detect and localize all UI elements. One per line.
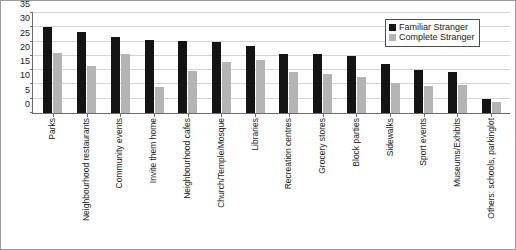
bar-group — [103, 13, 137, 113]
x-axis-label: Others: schools, parkinglot — [487, 118, 496, 219]
bar-familiar-stranger — [347, 56, 356, 113]
bar-complete-stranger — [87, 66, 96, 113]
x-axis-label: Community events — [115, 118, 124, 188]
legend-swatch-complete-stranger — [389, 34, 396, 41]
x-axis-label-cell: Sport events — [407, 118, 441, 248]
y-axis-tick-label: 15 — [20, 57, 30, 66]
x-axis-tick-mark — [356, 113, 357, 117]
bar-chart: 05101520253035 ParksNeighbourhood restau… — [0, 0, 516, 250]
bar-group — [171, 13, 205, 113]
bar-familiar-stranger — [482, 99, 491, 113]
bar-complete-stranger — [492, 102, 501, 113]
x-axis-label-cell: Grocery stores — [305, 118, 339, 248]
x-axis-tick-mark — [154, 113, 155, 117]
legend-label-familiar-stranger: Familiar Stranger — [399, 23, 468, 32]
y-axis-tick-label: 10 — [20, 71, 30, 80]
bar-familiar-stranger — [111, 37, 120, 113]
bar-familiar-stranger — [381, 64, 390, 113]
x-axis-tick-mark — [87, 113, 88, 117]
legend-item: Familiar Stranger — [389, 23, 475, 32]
x-axis-label: Neighbourhood cafes — [183, 118, 192, 199]
bar-complete-stranger — [188, 71, 197, 113]
y-axis-tick-label: 0 — [25, 100, 30, 109]
bar-complete-stranger — [121, 54, 130, 113]
x-axis-label-cell: Libraries — [238, 118, 272, 248]
x-axis-label: Grocery stores — [318, 118, 327, 174]
x-axis-label-cell: Invite them home — [136, 118, 170, 248]
x-axis-label-cell: Neighbourhood cafes — [170, 118, 204, 248]
bar-familiar-stranger — [448, 72, 457, 113]
y-axis-tick-label: 35 — [20, 0, 30, 9]
x-axis-label-cell: Museums/Exhibits — [440, 118, 474, 248]
x-axis-tick-mark — [255, 113, 256, 117]
x-axis-tick-mark — [491, 113, 492, 117]
bar-complete-stranger — [256, 60, 265, 113]
bar-group — [272, 13, 306, 113]
x-axis-tick-mark — [424, 113, 425, 117]
bar-complete-stranger — [391, 83, 400, 113]
bar-complete-stranger — [155, 87, 164, 113]
x-axis-label: Church/Temple/Mosque — [217, 118, 226, 208]
bar-familiar-stranger — [246, 46, 255, 113]
x-axis-label: Recreation centres — [284, 118, 293, 189]
x-axis-label: Museums/Exhibits — [453, 118, 462, 187]
x-axis-labels: ParksNeighbourhood restaurantsCommunity … — [32, 118, 510, 248]
x-axis-tick-mark — [188, 113, 189, 117]
bar-group — [238, 13, 272, 113]
bar-group — [137, 13, 171, 113]
x-axis-tick-mark — [53, 113, 54, 117]
x-axis-label: Sidewalks — [385, 118, 394, 156]
x-axis-tick-mark — [323, 113, 324, 117]
bar-complete-stranger — [323, 74, 332, 113]
x-axis-label-cell: Parks — [35, 118, 69, 248]
bar-familiar-stranger — [212, 42, 221, 113]
x-axis-label: Sport events — [419, 118, 428, 166]
bar-complete-stranger — [357, 77, 366, 113]
bar-group — [339, 13, 373, 113]
bar-group — [36, 13, 70, 113]
bar-complete-stranger — [53, 53, 62, 113]
x-axis-label: Parks — [48, 118, 57, 140]
bar-familiar-stranger — [145, 40, 154, 113]
bar-familiar-stranger — [178, 41, 187, 113]
bar-familiar-stranger — [279, 54, 288, 113]
y-axis-tick-label: 5 — [25, 85, 30, 94]
y-axis-tick-label: 20 — [20, 42, 30, 51]
bar-group — [205, 13, 239, 113]
bar-complete-stranger — [424, 86, 433, 113]
bar-group — [70, 13, 104, 113]
x-axis-label: Block parties — [352, 118, 361, 167]
x-axis-label: Neighbourhood restaurants — [81, 118, 90, 221]
x-axis-label: Invite them home — [149, 118, 158, 183]
x-axis-tick-mark — [390, 113, 391, 117]
bar-familiar-stranger — [313, 54, 322, 113]
bar-familiar-stranger — [414, 70, 423, 113]
legend-swatch-familiar-stranger — [389, 24, 396, 31]
legend-label-complete-stranger: Complete Stranger — [399, 33, 475, 42]
x-axis-label: Libraries — [250, 118, 259, 151]
legend: Familiar Stranger Complete Stranger — [385, 19, 480, 47]
x-axis-tick-mark — [289, 113, 290, 117]
y-axis-tick-label: 25 — [20, 28, 30, 37]
y-axis-tick-label: 30 — [20, 14, 30, 23]
x-axis-label-cell: Sidewalks — [373, 118, 407, 248]
x-axis-label-cell: Neighbourhood restaurants — [69, 118, 103, 248]
legend-item: Complete Stranger — [389, 33, 475, 42]
bar-complete-stranger — [289, 72, 298, 113]
x-axis-label-cell: Others: schools, parkinglot — [474, 118, 508, 248]
bar-complete-stranger — [458, 85, 467, 113]
bar-familiar-stranger — [77, 32, 86, 113]
x-axis-label-cell: Block parties — [339, 118, 373, 248]
x-axis-label-cell: Community events — [103, 118, 137, 248]
bar-group — [306, 13, 340, 113]
x-axis-label-cell: Recreation centres — [271, 118, 305, 248]
x-axis-label-cell: Church/Temple/Mosque — [204, 118, 238, 248]
bar-complete-stranger — [222, 62, 231, 113]
x-axis-tick-mark — [221, 113, 222, 117]
bar-familiar-stranger — [43, 27, 52, 113]
x-axis-tick-mark — [457, 113, 458, 117]
x-axis-tick-mark — [120, 113, 121, 117]
